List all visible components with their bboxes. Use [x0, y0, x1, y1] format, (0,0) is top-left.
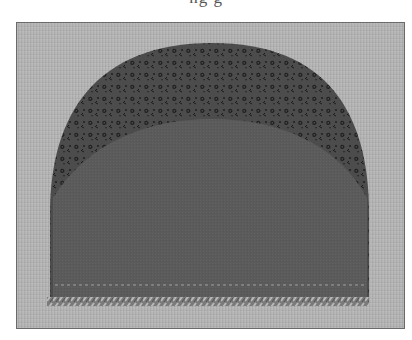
- photo-frame: [16, 22, 405, 329]
- serged-edge: [47, 297, 369, 306]
- cropped-caption: ng g: [0, 0, 412, 7]
- fabric-panel-illustration: [17, 23, 405, 329]
